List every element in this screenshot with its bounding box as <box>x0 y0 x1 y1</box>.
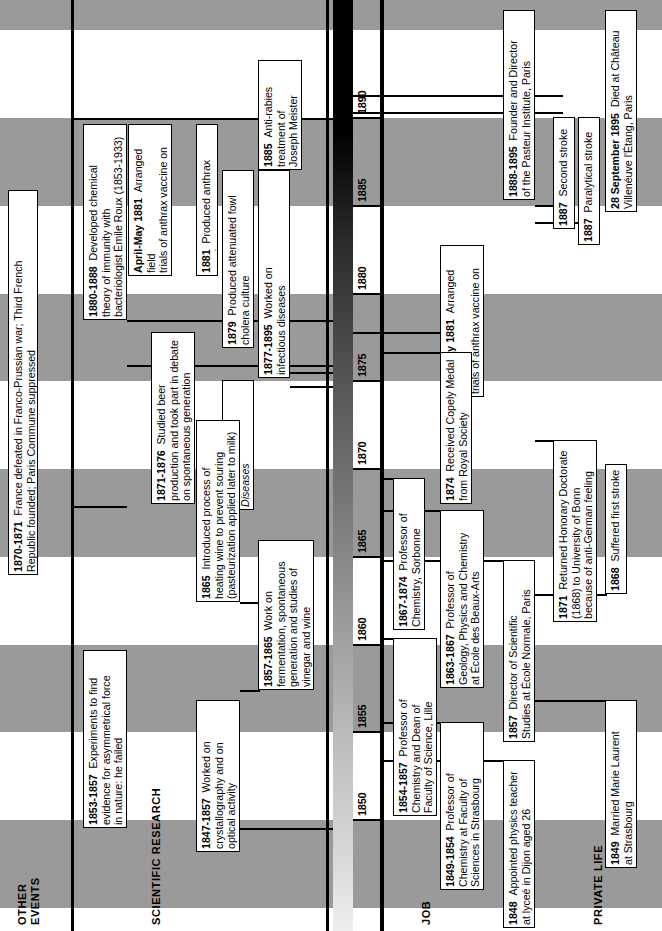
event-year: 1881 <box>200 249 212 273</box>
year-label-1880: 1880 <box>357 266 368 289</box>
year-label-1885: 1885 <box>357 178 368 201</box>
event-text: 1885 Anti-rabiestreatment ofJoseph Meist… <box>262 65 300 167</box>
event-box: 1880-1888 Developed chemicaltheory of im… <box>83 124 127 320</box>
lane-title-private-life: PRIVATE LIFE <box>592 825 605 925</box>
event-year: 1871-1876 <box>155 450 167 501</box>
event-box: 1870-1871 France defeated in Franco-Prus… <box>8 190 38 575</box>
event-box: 28 September 1895 Died at ChâteauVillené… <box>605 10 637 212</box>
event-box: 1847-1857 Worked oncrystallography and o… <box>196 700 240 852</box>
leader-line <box>381 352 443 354</box>
event-year: 1857 <box>507 715 519 739</box>
sep-job <box>381 0 384 931</box>
event-text: 1868 Suffered first stroke <box>609 469 622 591</box>
event-year: 1888-1895 <box>507 146 519 197</box>
lane-title-other-events: OTHEREVENTS <box>16 830 41 925</box>
event-text: 1879 Produced attenuated fowlcholera cul… <box>226 175 251 345</box>
event-box: 1885 Anti-rabiestreatment ofJoseph Meist… <box>258 60 302 170</box>
axis-gradient-ramp <box>333 0 353 931</box>
event-box: 1887 Paralytical stroke <box>578 117 600 245</box>
event-year: 1847-1857 <box>200 798 212 849</box>
shading-band-1895 <box>0 0 662 30</box>
event-box: 1849 Married Marie Laurentat Strasbourg <box>605 700 637 868</box>
event-box: 1888-1895 Founder and Directorof the Pas… <box>503 10 535 200</box>
year-tick-1860 <box>353 644 381 646</box>
leader-line <box>535 440 555 442</box>
lane-title-job: JOB <box>420 865 433 925</box>
year-label-1870: 1870 <box>357 442 368 465</box>
event-text: 1849 Married Marie Laurentat Strasbourg <box>609 705 634 865</box>
event-year: April-May 1881 <box>132 198 144 273</box>
event-box: 1874 Received Copely Medalfrom Royal Soc… <box>440 352 472 504</box>
event-box: 1849-1854 Professor ofChemistry at Facul… <box>440 722 484 890</box>
event-text: 1874 Received Copely Medalfrom Royal Soc… <box>444 357 469 501</box>
event-text: 1877-1895 Worked oninfectious diseases <box>262 175 287 375</box>
year-tick-1855 <box>353 731 381 733</box>
event-year: 1848 <box>507 901 519 925</box>
year-label-1875: 1875 <box>357 354 368 377</box>
event-text: 1857-1865 Work onfermentation, spontaneo… <box>262 545 312 687</box>
year-label-1855: 1855 <box>357 705 368 728</box>
sep-scientific-research <box>326 0 329 931</box>
event-box: 1867-1874 Professor ofChemistry, Sorbonn… <box>393 478 425 630</box>
event-year: 1887 <box>582 218 594 242</box>
year-axis: 185018551860186518701875188018851890 <box>333 0 381 931</box>
event-year: 1853-1857 <box>87 774 99 825</box>
event-year: 1870-1871 <box>12 521 24 572</box>
event-text: 28 September 1895 Died at ChâteauVillené… <box>609 15 634 209</box>
event-year: 1867-1874 <box>397 576 409 627</box>
event-year: 1871 <box>557 595 569 619</box>
event-text: 1867-1874 Professor ofChemistry, Sorbonn… <box>397 483 422 627</box>
event-year: 1879 <box>226 321 238 345</box>
event-year: 1854-1857 <box>397 762 409 813</box>
event-box: 1868 Suffered first stroke <box>605 464 627 594</box>
event-text: 1888-1895 Founder and Directorof the Pas… <box>507 15 532 197</box>
event-year: 1857-1865 <box>262 636 274 687</box>
event-text: 1871-1876 Studied beerproduction and too… <box>155 337 193 501</box>
year-label-1890: 1890 <box>357 91 368 114</box>
event-text: 1854-1857 Professor ofChemistry and Dean… <box>397 643 435 813</box>
event-box: 1877-1895 Worked oninfectious diseases <box>258 170 290 378</box>
event-text: 1880-1888 Developed chemicaltheory of im… <box>87 129 125 317</box>
event-box: 1881 Produced anthrax vaccine <box>196 124 218 276</box>
event-year: 1880-1888 <box>87 266 99 317</box>
event-year: 1877-1895 <box>262 324 274 375</box>
timeline-figure: 185018551860186518701875188018851890 OTH… <box>0 0 662 931</box>
event-year: 1885 <box>262 143 274 167</box>
event-box: 1865 Introduced process ofheating wine t… <box>196 420 240 602</box>
year-label-1865: 1865 <box>357 529 368 552</box>
event-box: 1871-1876 Studied beerproduction and too… <box>151 332 195 504</box>
event-text: 1853-1857 Experiments to findevidence fo… <box>87 655 125 825</box>
year-label-1850: 1850 <box>357 793 368 816</box>
event-year: 1868 <box>609 567 621 591</box>
year-tick-1885 <box>353 205 381 207</box>
year-tick-1865 <box>353 556 381 558</box>
event-text: 1865 Introduced process ofheating wine t… <box>200 425 238 599</box>
year-tick-1875 <box>353 380 381 382</box>
year-label-1860: 1860 <box>357 617 368 640</box>
event-box: 1879 Produced attenuated fowlcholera cul… <box>222 170 254 348</box>
event-year: 1865 <box>200 575 212 599</box>
year-tick-1850 <box>353 819 381 821</box>
event-text: 1871 Returned Honorary Doctorate(1868) t… <box>557 445 595 619</box>
leader-line <box>535 700 607 702</box>
event-year: 28 September 1895 <box>609 113 621 209</box>
event-year: 1863-1867 <box>444 634 456 685</box>
event-text: 1863-1867 Professor ofGeology, Physics a… <box>444 515 482 685</box>
event-text: 1847-1857 Worked oncrystallography and o… <box>200 705 238 849</box>
event-year: 1849-1854 <box>444 836 456 887</box>
event-box: April-May 1881 Arranged fieldtrials of a… <box>128 124 172 276</box>
leader-line <box>240 690 260 692</box>
event-text: 1887 Paralytical stroke <box>582 122 595 242</box>
lane-title-scientific-research: SCIENTIFIC RESEARCH <box>150 785 163 925</box>
shading-band-1845 <box>0 820 662 908</box>
event-box: 1871 Returned Honorary Doctorate(1868) t… <box>553 440 597 622</box>
event-text: 1857 Director of ScientificStudies at Éc… <box>507 565 532 739</box>
event-box: 1857 Director of ScientificStudies at Éc… <box>503 560 535 742</box>
year-tick-1870 <box>353 468 381 470</box>
event-year: 1849 <box>609 841 621 865</box>
event-text: 1881 Produced anthrax vaccine <box>200 129 218 273</box>
event-box: 1887 Second stroke <box>553 117 575 229</box>
event-box: 1854-1857 Professor ofChemistry and Dean… <box>393 638 437 816</box>
leader-line <box>71 506 127 508</box>
event-text: April-May 1881 Arranged fieldtrials of a… <box>132 129 172 273</box>
